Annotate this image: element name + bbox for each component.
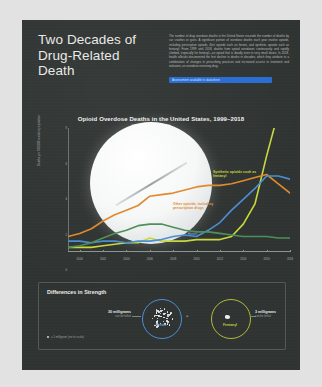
- granule-icon: [163, 317, 165, 319]
- granule-icon: [167, 315, 169, 317]
- granule-icon: [170, 312, 172, 314]
- infographic-poster: Two Decades of Drug-Related Death The nu…: [22, 20, 300, 370]
- granule-icon: [152, 318, 154, 320]
- strength-panel-title: Differences in Strength: [47, 289, 106, 295]
- x-tick-label: 2008: [170, 257, 176, 261]
- page-title: Two Decades of Drug-Related Death: [38, 32, 158, 79]
- line-series-group: [68, 128, 290, 252]
- scale-footnote: = 1 milligram (not to scale): [47, 335, 84, 339]
- fentanyl-granule: [225, 315, 230, 319]
- granule-dot-icon: [47, 336, 49, 338]
- x-tick-label: 2004: [123, 257, 129, 261]
- y-tick-label: 2: [60, 233, 67, 237]
- granule-icon: [157, 318, 159, 320]
- heroin-leader-line: [132, 316, 141, 317]
- fentanyl-dose: 3 milligrams can be lethal: [255, 310, 299, 318]
- fentanyl-circle: [211, 299, 251, 339]
- x-tick-label: 2012: [217, 257, 223, 261]
- y-axis-label: Deaths per 100,000 resident population: [38, 115, 41, 166]
- y-tick-label: 4: [60, 197, 67, 201]
- x-tick-label: 2010: [193, 257, 199, 261]
- screenshot-canvas: Two Decades of Drug-Related Death The nu…: [0, 0, 322, 387]
- heroin-caption: Heroin: [142, 323, 180, 327]
- selected-link-highlight[interactable]: Assessment available in datasheet: [169, 77, 272, 83]
- granule-icon: [172, 318, 174, 320]
- intro-paragraph: The number of drug overdose deaths in th…: [169, 34, 289, 68]
- x-tick-label: 2002: [100, 257, 106, 261]
- heroin-granules: [142, 299, 180, 337]
- equals-sign: =: [186, 313, 188, 318]
- x-tick-label: 2016: [264, 257, 270, 261]
- granule-icon: [160, 313, 162, 315]
- fentanyl-dose-note: can be lethal: [255, 314, 299, 318]
- x-tick-label: 2014: [240, 257, 246, 261]
- y-tick-label: 0: [60, 268, 67, 272]
- annotation-heroin: Heroin: [188, 232, 197, 236]
- granule-icon: [160, 316, 162, 318]
- chart-title: Opioid Overdose Deaths in the United Sta…: [22, 116, 300, 122]
- granule-icon: [156, 309, 158, 311]
- scale-footnote-label: = 1 milligram (not to scale): [51, 335, 84, 339]
- granule-icon: [167, 311, 169, 313]
- granule-icon: [163, 321, 165, 323]
- granule-icon: [164, 313, 166, 315]
- x-tick-label: 2006: [147, 257, 153, 261]
- granule-icon: [164, 308, 166, 310]
- selected-link-label: Assessment available in datasheet: [172, 78, 220, 82]
- x-tick-label: 2000: [77, 257, 83, 261]
- fentanyl-caption: Fentanyl: [211, 323, 249, 327]
- y-tick-label: 6: [60, 162, 67, 166]
- strength-panel: Differences in Strength 30 milligrams ca…: [38, 282, 286, 350]
- annotation-synthetic-opioids: Synthetic opioids such as fentanyl: [213, 170, 261, 179]
- x-tick-label: 2018: [287, 257, 293, 261]
- chart-area: Deaths per 100,000 resident population 0…: [40, 128, 290, 270]
- heroin-dose-note: can be lethal: [77, 314, 131, 318]
- granule-icon: [158, 315, 160, 317]
- heroin-dose: 30 milligrams can be lethal: [77, 310, 131, 318]
- y-tick-label: 8: [60, 126, 67, 130]
- poster-header: Two Decades of Drug-Related Death The nu…: [22, 20, 300, 108]
- annotation-other-opioids: Other opioids, including prescription dr…: [173, 202, 225, 211]
- x-tick-mark: [290, 250, 291, 252]
